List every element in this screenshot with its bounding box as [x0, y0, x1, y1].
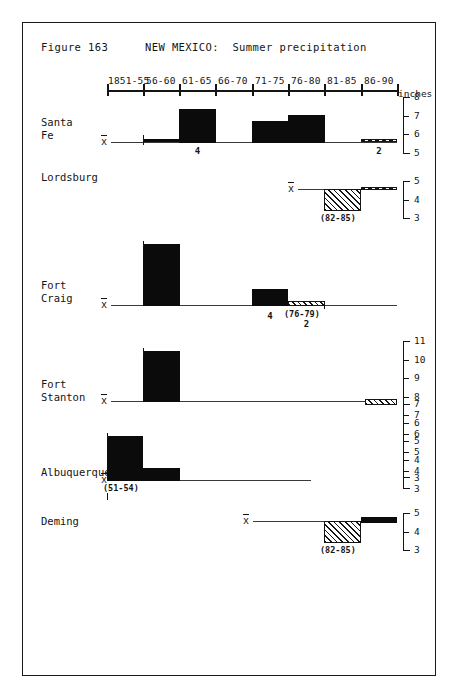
- period-label-71-75: 71-75: [255, 75, 285, 86]
- mean-symbol-deming: x: [243, 516, 249, 526]
- bar-deming-86-90: [361, 517, 397, 523]
- scale-label-abq-4: 4: [414, 454, 420, 465]
- plot-deming: x (82-85): [23, 491, 437, 561]
- period-note-fort-craig: (76-79): [284, 309, 320, 319]
- years-label-fort-craig-71-75: 4: [252, 311, 288, 321]
- scale-label-abq-6: 6: [414, 417, 420, 428]
- period-label-56-60: 56-60: [146, 75, 176, 86]
- scale-label-abq-7: 7: [414, 398, 420, 409]
- bar-fort-stanton-56-60: [143, 351, 180, 402]
- period-label-61-65: 61-65: [182, 75, 212, 86]
- period-label-81-85: 81-85: [327, 75, 357, 86]
- figure-frame: Figure 163 NEW MEXICO: Summer precipitat…: [22, 22, 436, 676]
- bar-fort-craig-71-75: [252, 289, 288, 306]
- bar-fort-stanton-86-90: [365, 399, 397, 405]
- plot-fort-craig: x 4 (76-79) 2: [23, 218, 437, 330]
- scale-label-fs-9: 9: [414, 372, 420, 383]
- period-label-76-80: 76-80: [291, 75, 321, 86]
- scale-label-abq-3: 3: [414, 472, 420, 483]
- station-santa-fe: Santa Fe x 4 2 8 7 6: [23, 89, 437, 165]
- mean-symbol-fort-craig: x: [101, 300, 107, 310]
- station-fort-craig: Fort Craig x 4 (76-79) 2: [23, 218, 437, 330]
- station-fort-stanton: Fort Stanton x 11 10 9 8 7 6 5: [23, 333, 437, 411]
- scale-label-santa-fe-5: 5: [414, 147, 420, 158]
- bar-santa-fe-61-65: [179, 109, 216, 143]
- figure-title: NEW MEXICO: Summer precipitation: [145, 41, 367, 53]
- station-albuquerque: Albuquerque x (51-54) 7 6 5 4 3: [23, 408, 437, 498]
- stub-santa-fe-1851-55: [143, 135, 144, 145]
- scale-label-deming-3: 3: [414, 544, 420, 555]
- period-note-deming: (82-85): [320, 545, 356, 555]
- scale-label-deming-4: 4: [414, 526, 420, 537]
- scale-label-santa-fe-6: 6: [414, 128, 420, 139]
- period-label-86-90: 86-90: [364, 75, 394, 86]
- years-label-santa-fe-86-90: 2: [361, 146, 397, 156]
- stub-fort-craig-76-79: [324, 301, 325, 309]
- period-label-1851-55: 1851-55: [108, 75, 149, 86]
- bar-fort-craig-56-60: [143, 244, 180, 306]
- scale-label-abq-5: 5: [414, 435, 420, 446]
- bar-santa-fe-86-90: [361, 139, 397, 142]
- years-label-santa-fe-61-65: 4: [179, 146, 216, 156]
- bar-santa-fe-1851-55: [143, 139, 179, 142]
- mean-symbol-santa-fe: x: [101, 137, 107, 147]
- scale-label-santa-fe-7: 7: [414, 110, 420, 121]
- bar-santa-fe-76-80: [288, 115, 325, 143]
- years-label-fort-craig-76-79: 2: [288, 319, 325, 329]
- plot-albuquerque: x (51-54): [23, 408, 437, 498]
- scale-label-fs-11: 11: [414, 335, 425, 346]
- bar-santa-fe-71-75: [252, 121, 288, 143]
- mean-symbol-fort-stanton: x: [101, 396, 107, 406]
- plot-santa-fe: x 4 2: [23, 89, 437, 165]
- scale-label-lordsburg-4: 4: [414, 194, 420, 205]
- station-deming: Deming x (82-85) 5 4 3: [23, 491, 437, 561]
- bar-deming-82-85: [324, 521, 361, 543]
- scale-label-deming-5: 5: [414, 507, 420, 518]
- plot-fort-stanton: x: [23, 333, 437, 411]
- stub-fort-craig-56-60: [143, 241, 144, 249]
- bar-albuquerque-56-60: [143, 468, 180, 481]
- scale-label-fs-10: 10: [414, 354, 425, 365]
- figure-number: Figure 163: [41, 41, 108, 53]
- stub-albuquerque-51-54: [107, 433, 108, 441]
- period-label-66-70: 66-70: [218, 75, 248, 86]
- scale-label-lordsburg-5: 5: [414, 175, 420, 186]
- bar-albuquerque-51-54: [107, 436, 143, 481]
- stub-fort-stanton-56-60: [143, 348, 144, 356]
- mean-symbol-lordsburg: x: [288, 184, 294, 194]
- scale-label-santa-fe-8: 8: [414, 91, 420, 102]
- bar-lordsburg-86-90: [361, 187, 397, 190]
- bar-fort-craig-76-79: [288, 301, 325, 306]
- bar-lordsburg-82-85: [324, 189, 361, 211]
